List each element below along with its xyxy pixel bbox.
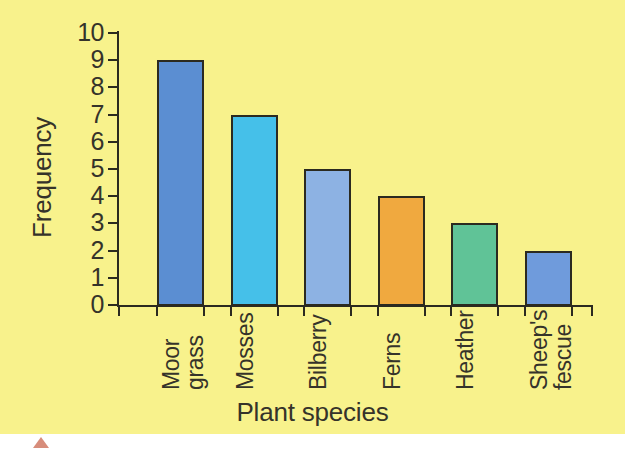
x-axis-tick-label: Bilberry (306, 314, 331, 390)
y-axis-tick-label: 6 (66, 129, 104, 154)
y-axis-tick (108, 195, 117, 197)
x-axis-tick-label: fescue (551, 324, 576, 390)
y-axis-tick-label: 1 (66, 265, 104, 290)
y-axis-tick-label-text: 1 (74, 265, 104, 290)
x-axis-tick-label: Ferns (380, 333, 405, 390)
y-axis-tick-label-text: 9 (74, 47, 104, 72)
y-axis-tick (108, 59, 117, 61)
y-axis-tick-label: 8 (66, 74, 104, 99)
y-axis-tick (108, 32, 117, 34)
x-axis-tick-label: Moor (159, 339, 184, 390)
x-axis-tick (591, 306, 593, 316)
y-axis-tick (108, 168, 117, 170)
y-axis-tick-label: 3 (66, 210, 104, 235)
bar (157, 60, 204, 306)
x-axis-tick (377, 306, 379, 316)
x-axis-tick (118, 306, 120, 316)
x-axis-tick (203, 306, 205, 316)
y-axis-tick (108, 304, 117, 306)
bar (451, 223, 498, 306)
y-axis-tick-label-text: 4 (74, 183, 104, 208)
x-axis-tick-label: Mosses (233, 313, 258, 390)
bar (231, 115, 278, 306)
y-axis-tick-label: 10 (66, 20, 104, 45)
y-axis-tick (108, 277, 117, 279)
x-axis-title: Plant species (0, 398, 625, 426)
y-axis-tick-label: 4 (66, 183, 104, 208)
x-axis-tick-label: Heather (453, 310, 478, 390)
bar (378, 196, 425, 306)
y-axis-tick-label-text: 3 (74, 210, 104, 235)
y-axis-tick-label: 2 (66, 238, 104, 263)
page-corner-marker-icon (33, 437, 49, 448)
y-axis-tick-label-text: 0 (74, 292, 104, 317)
y-axis-tick-label-text: 6 (74, 129, 104, 154)
y-axis-tick-label: 5 (66, 156, 104, 181)
y-axis-tick-label-text: 8 (74, 74, 104, 99)
x-axis-tick (156, 306, 158, 316)
x-axis-tick (497, 306, 499, 316)
y-axis-tick-label: 0 (66, 292, 104, 317)
y-axis-tick-label-text: 5 (74, 156, 104, 181)
y-axis-tick (108, 222, 117, 224)
x-axis-tick-label: grass (183, 335, 208, 390)
x-axis-tick (350, 306, 352, 316)
y-axis-tick-label-text: 2 (74, 238, 104, 263)
y-axis-tick (108, 114, 117, 116)
x-axis-tick-label: Sheep's (527, 310, 552, 390)
y-axis-title: Frequency (28, 117, 56, 238)
y-axis-tick (108, 141, 117, 143)
page-bottom-strip (0, 434, 625, 460)
x-axis-tick (277, 306, 279, 316)
y-axis-line (117, 31, 119, 307)
y-axis-tick (108, 86, 117, 88)
y-axis-tick-label-text: 10 (74, 20, 104, 45)
y-axis-tick-label: 7 (66, 102, 104, 127)
bar (525, 251, 572, 306)
bar (304, 169, 351, 306)
x-axis-tick (424, 306, 426, 316)
x-axis-tick (571, 306, 573, 316)
y-axis-tick-label-text: 7 (74, 102, 104, 127)
bar-chart-plot: 012345678910 MoorgrassMossesBilberryFern… (0, 0, 625, 434)
y-axis-tick (108, 250, 117, 252)
y-axis-tick-label: 9 (66, 47, 104, 72)
